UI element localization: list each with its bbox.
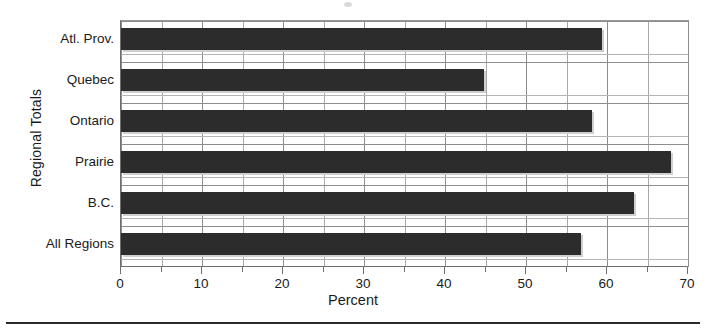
bar[interactable] bbox=[121, 151, 671, 172]
gridline-horizontal bbox=[121, 103, 688, 104]
plot-area bbox=[120, 20, 689, 267]
x-axis-tick bbox=[444, 267, 445, 274]
x-axis-tick bbox=[282, 267, 283, 274]
gridline-horizontal bbox=[121, 21, 688, 22]
gridline-horizontal-light bbox=[121, 218, 688, 219]
x-axis-tick bbox=[363, 267, 364, 274]
bar-chart: Regional Totals Atl. Prov.QuebecOntarioP… bbox=[0, 0, 706, 335]
bar[interactable] bbox=[121, 69, 484, 90]
bar-row bbox=[121, 28, 688, 49]
bar[interactable] bbox=[121, 233, 581, 254]
category-label-2: Ontario bbox=[26, 113, 114, 128]
x-tick-label-6: 60 bbox=[598, 276, 613, 291]
bar-row bbox=[121, 110, 688, 131]
gridline-horizontal-light bbox=[121, 95, 688, 96]
x-axis-tick bbox=[687, 267, 688, 274]
bar[interactable] bbox=[121, 110, 592, 131]
x-tick-label-2: 20 bbox=[274, 276, 289, 291]
x-tick-label-7: 70 bbox=[679, 276, 694, 291]
gridline-horizontal-light bbox=[121, 177, 688, 178]
category-label-0: Atl. Prov. bbox=[26, 31, 114, 46]
bar-row bbox=[121, 151, 688, 172]
x-axis-tick bbox=[485, 267, 486, 272]
bar-row bbox=[121, 192, 688, 213]
gridline-major bbox=[688, 21, 689, 267]
x-axis-tick bbox=[323, 267, 324, 272]
x-axis-tick bbox=[120, 267, 121, 274]
gridline-horizontal-light bbox=[121, 54, 688, 55]
x-tick-label-1: 10 bbox=[193, 276, 208, 291]
gridline-horizontal-light bbox=[121, 259, 688, 260]
gridline-horizontal bbox=[121, 226, 688, 227]
gridline-horizontal-light bbox=[121, 136, 688, 137]
bar-row bbox=[121, 233, 688, 254]
x-axis-tick bbox=[566, 267, 567, 272]
scan-artifact bbox=[344, 2, 352, 7]
x-axis-title: Percent bbox=[0, 292, 706, 308]
gridline-horizontal bbox=[121, 144, 688, 145]
category-label-list: Atl. Prov.QuebecOntarioPrairieB.C.All Re… bbox=[26, 20, 114, 266]
x-axis-tick bbox=[201, 267, 202, 274]
x-tick-label-3: 30 bbox=[355, 276, 370, 291]
gridline-horizontal bbox=[121, 185, 688, 186]
x-axis-tick bbox=[242, 267, 243, 272]
x-tick-label-0: 0 bbox=[116, 276, 124, 291]
category-label-4: B.C. bbox=[26, 195, 114, 210]
x-axis-tick bbox=[606, 267, 607, 274]
x-axis-tick bbox=[404, 267, 405, 272]
bar[interactable] bbox=[121, 192, 634, 213]
footer-rule bbox=[6, 322, 700, 324]
bar[interactable] bbox=[121, 28, 602, 49]
category-label-5: All Regions bbox=[26, 236, 114, 251]
x-axis-tick bbox=[647, 267, 648, 272]
category-label-1: Quebec bbox=[26, 72, 114, 87]
gridline-horizontal bbox=[121, 62, 688, 63]
x-tick-label-4: 40 bbox=[436, 276, 451, 291]
x-tick-label-5: 50 bbox=[517, 276, 532, 291]
x-axis-line bbox=[120, 266, 687, 267]
bar-row bbox=[121, 69, 688, 90]
category-label-3: Prairie bbox=[26, 154, 114, 169]
x-axis-tick bbox=[161, 267, 162, 272]
x-axis-tick bbox=[525, 267, 526, 274]
